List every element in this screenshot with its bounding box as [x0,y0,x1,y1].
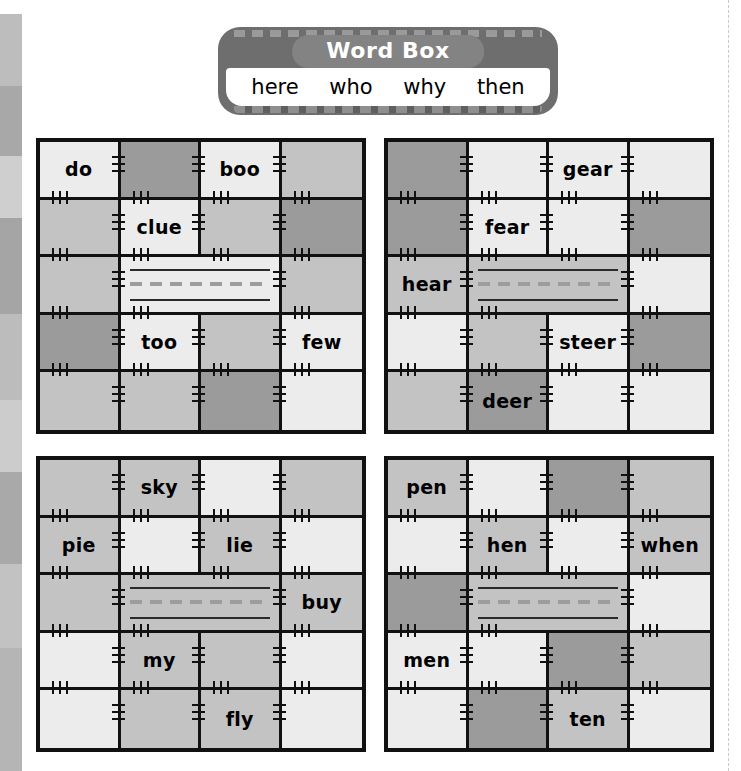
quilt-patch-word: men [388,633,469,691]
edge-stripe-segment [0,218,22,314]
word-box-word[interactable]: why [403,75,446,99]
quilt-patch [469,690,550,748]
handwriting-lines-area[interactable] [469,257,630,315]
quilt-patch [40,315,121,373]
quilt-patch [201,633,282,691]
handwriting-lines-area[interactable] [121,257,282,315]
quilt-patch-word: buy [282,575,363,633]
quilt-patch [630,633,711,691]
writing-rule-top [130,587,270,589]
quilt-patch [201,200,282,258]
quilt-patch [388,315,469,373]
writing-rule-bottom [130,617,270,619]
quilt-en-sound: penhenwhenmenten [384,456,714,752]
writing-rule-mid [478,600,618,604]
quilt-patch-word: boo [201,142,282,200]
quilt-patch-word: when [630,518,711,576]
patch-word-label: do [65,158,92,180]
quilt-patch [388,518,469,576]
writing-rule-mid [130,600,270,604]
quilt-patch [282,142,363,200]
trim-guide-dashed-line [728,0,729,771]
quilt-patch [282,690,363,748]
quilt-patch [549,633,630,691]
quilt-patch [40,690,121,748]
edge-stripe-segment [0,156,22,218]
patch-word-label: steer [559,331,616,353]
patch-word-label: sky [141,476,178,498]
writing-rule-bottom [130,299,270,301]
quilt-patch [201,315,282,373]
edge-stripe-segment [0,648,22,771]
quilt-patch [549,200,630,258]
quilt-patch [469,315,550,373]
word-box: Word Box herewhowhythen [218,27,558,115]
writing-rule-bottom [478,299,618,301]
quilt-patch [549,460,630,518]
edge-stripe-segment [0,0,22,14]
quilt-patch [201,460,282,518]
quilt-patch [282,257,363,315]
quilt-patch-word: steer [549,315,630,373]
quilt-ear-sound: gearfearhearsteerdeer [384,138,714,434]
word-box-title: Word Box [292,35,484,68]
quilt-patch [469,142,550,200]
quilt-patch [630,200,711,258]
quilt-patch [630,575,711,633]
patch-word-label: clue [137,216,182,238]
edge-stripe-segment [0,14,22,86]
quilt-patch [388,200,469,258]
quilt-patch [121,518,202,576]
left-edge-stripes [0,0,22,771]
quilt-patch [630,142,711,200]
quilt-patch [201,372,282,430]
patch-word-label: men [403,649,450,671]
handwriting-lines-area[interactable] [121,575,282,633]
patch-word-label: deer [482,390,532,412]
quilt-patch [121,372,202,430]
quilt-patch-word: pie [40,518,121,576]
quilt-patch [469,633,550,691]
quilt-patch-word: lie [201,518,282,576]
patch-word-label: gear [563,158,613,180]
patch-word-label: few [302,331,342,353]
quilt-patch-word: sky [121,460,202,518]
quilt-patch [630,372,711,430]
quilt-patch [282,460,363,518]
writing-rule-top [478,587,618,589]
handwriting-lines-area[interactable] [469,575,630,633]
patch-word-label: hear [402,273,452,295]
patch-word-label: pie [62,534,96,556]
patch-word-label: hen [487,534,528,556]
quilt-patch [630,460,711,518]
quilt-patch [388,372,469,430]
quilt-patch [388,142,469,200]
edge-stripe-segment [0,400,22,472]
quilt-patch [388,575,469,633]
quilt-patch [630,257,711,315]
patch-word-label: boo [219,158,260,180]
writing-rule-bottom [478,617,618,619]
writing-rule-mid [478,282,618,286]
word-box-word[interactable]: then [477,75,525,99]
quilt-patch [40,575,121,633]
quilt-patch [282,518,363,576]
writing-rule-top [130,269,270,271]
quilt-patch [121,142,202,200]
word-box-word[interactable]: who [329,75,372,99]
quilt-patch-word: fly [201,690,282,748]
edge-stripe-segment [0,472,22,564]
quilt-patch-word: pen [388,460,469,518]
quilt-patch-word: fear [469,200,550,258]
quilt-patch-word: do [40,142,121,200]
patch-word-label: when [640,534,699,556]
patch-word-label: too [141,331,177,353]
word-box-word[interactable]: here [251,75,298,99]
quilt-patch-word: ten [549,690,630,748]
quilt-patch [630,315,711,373]
quilt-patch [549,372,630,430]
quilt-patch [469,460,550,518]
quilt-patch [630,690,711,748]
writing-rule-top [478,269,618,271]
quilt-patch-word: my [121,633,202,691]
